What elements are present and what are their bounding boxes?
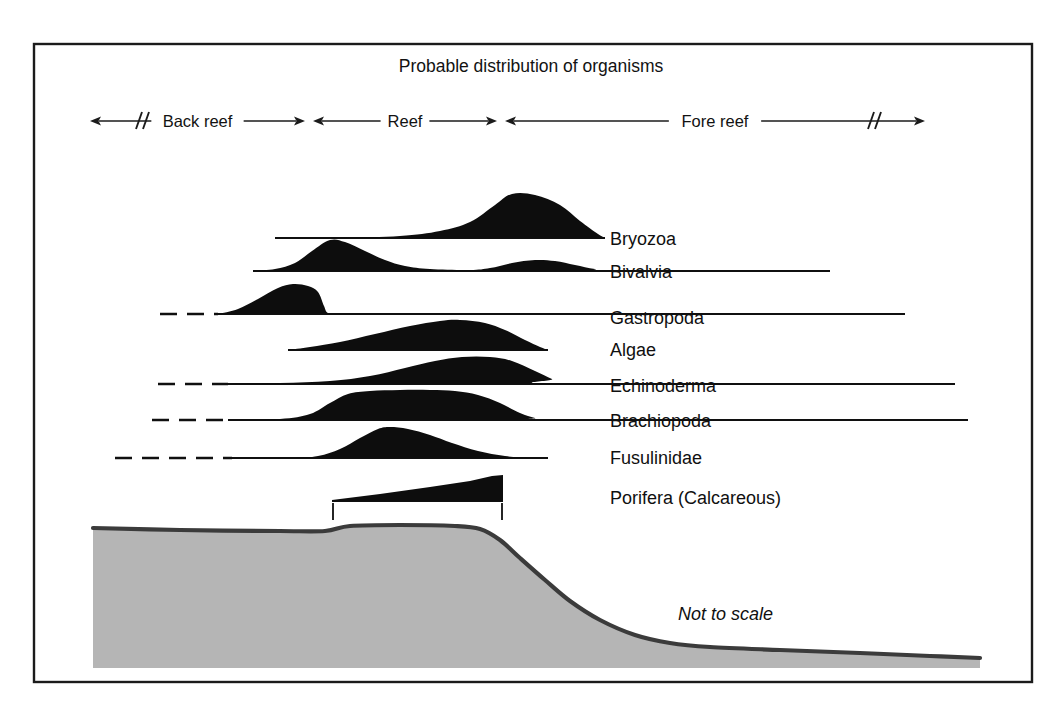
zone-label-0: Back reef xyxy=(163,112,233,130)
figure-container: Probable distribution of organisms Back … xyxy=(0,0,1062,717)
zone-label-2: Fore reef xyxy=(682,112,749,130)
organism-label-gastropoda: Gastropoda xyxy=(610,308,705,328)
scale-note: Not to scale xyxy=(678,604,773,624)
organism-label-brachiopoda: Brachiopoda xyxy=(610,411,712,431)
organism-label-fusulinidae: Fusulinidae xyxy=(610,448,702,468)
organism-label-bivalvia: Bivalvia xyxy=(610,262,673,282)
organism-label-porifera-calcareous: Porifera (Calcareous) xyxy=(610,488,781,508)
zone-label-1: Reef xyxy=(388,112,423,130)
chart-title: Probable distribution of organisms xyxy=(399,56,664,76)
reef-organism-distribution-diagram: Probable distribution of organisms Back … xyxy=(0,0,1062,717)
organism-label-echinoderma: Echinoderma xyxy=(610,376,717,396)
organism-label-algae: Algae xyxy=(610,340,656,360)
organism-label-bryozoa: Bryozoa xyxy=(610,229,677,249)
